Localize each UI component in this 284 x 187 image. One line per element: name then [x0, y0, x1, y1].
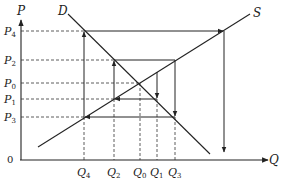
supply-curve	[38, 14, 250, 147]
x-axis-label: Q	[269, 153, 279, 167]
label-q2: Q2	[107, 166, 121, 180]
label-q4: Q4	[77, 166, 91, 180]
price-guides	[21, 31, 140, 117]
price-labels: P4 P2 P0 P1 P3	[3, 25, 16, 125]
y-axis-label: P	[16, 4, 26, 18]
label-p0: P0	[3, 77, 16, 91]
label-p4: P4	[3, 25, 16, 39]
quantity-labels: Q4 Q2 Q0 Q1 Q3	[77, 166, 182, 180]
origin-label: 0	[7, 154, 13, 165]
label-q3: Q3	[168, 166, 182, 180]
supply-label: S	[253, 6, 261, 20]
axes	[20, 20, 268, 160]
label-p2: P2	[3, 54, 16, 68]
quantity-guides	[84, 83, 175, 160]
curves	[38, 14, 250, 154]
cobweb-diagram: P Q 0 D S P4 P2 P0 P1 P3 Q4 Q2 Q0 Q1 Q3	[0, 0, 284, 187]
label-p3: P3	[3, 111, 16, 125]
label-p1: P1	[3, 93, 16, 107]
label-q0: Q0	[133, 166, 147, 180]
cobweb-path	[84, 31, 224, 152]
demand-label: D	[57, 4, 68, 18]
label-q1: Q1	[150, 166, 164, 180]
